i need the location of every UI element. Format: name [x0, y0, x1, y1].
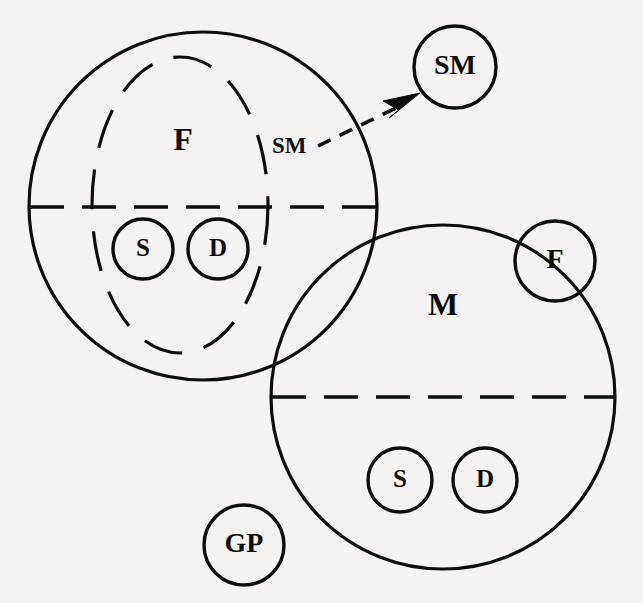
node-label-stepmother: SM	[434, 49, 476, 80]
node-label-father-boundary: F	[546, 243, 563, 274]
node-label-son-male: S	[393, 465, 407, 492]
node-group-grandparent[interactable]: GP	[204, 505, 284, 585]
arrow-group-stepmother-link	[318, 93, 420, 146]
set-group-female[interactable]: F	[29, 32, 377, 380]
arrow-shaft-stepmother	[318, 104, 404, 146]
node-label-son-female: S	[136, 234, 150, 261]
node-label-grandparent: GP	[225, 527, 264, 558]
node-group-stepmother[interactable]: SM	[414, 26, 496, 108]
node-group-female-son[interactable]: S	[113, 219, 173, 279]
node-label-daughter-female: D	[209, 234, 227, 261]
node-group-female-daughter[interactable]: D	[188, 219, 248, 279]
annotation-label-stepmother-inline: SM	[272, 133, 307, 158]
node-group-male-daughter[interactable]: D	[453, 448, 517, 512]
set-label-male: M	[428, 286, 458, 322]
arrow-head-icon	[383, 93, 420, 118]
set-group-male[interactable]: M	[271, 225, 615, 569]
node-group-father-on-male-boundary[interactable]: F	[515, 221, 595, 301]
node-label-daughter-male: D	[476, 465, 494, 492]
family-structure-diagram: F M S D S D SM	[0, 0, 643, 603]
diagram-canvas: F M S D S D SM	[0, 0, 643, 603]
set-label-female: F	[173, 121, 193, 157]
inner-dashed-ellipse-female	[92, 57, 268, 353]
node-group-male-son[interactable]: S	[368, 448, 432, 512]
